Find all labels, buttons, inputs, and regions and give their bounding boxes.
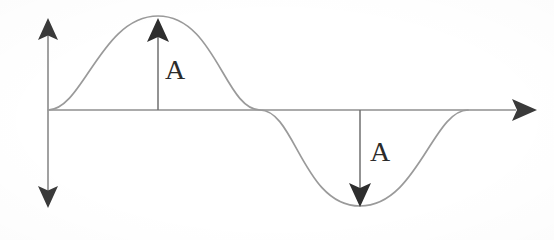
amplitude-label-negative: A [370,138,390,166]
vertical-axis [38,18,58,208]
figure-canvas [0,0,554,240]
amplitude-label-positive: A [165,56,185,84]
sine-curve-group [48,16,468,206]
amplitude-arrow-negative [349,110,371,207]
sine-curve [48,16,468,206]
sine-wave-amplitude-figure: A A [0,0,554,240]
